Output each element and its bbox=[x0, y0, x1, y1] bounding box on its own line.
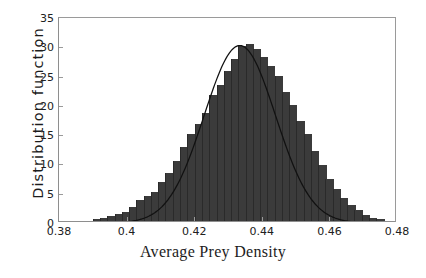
y-tick-mark bbox=[59, 164, 63, 165]
plot-area: 05101520253035 0.380.40.420.440.460.48 bbox=[58, 17, 396, 222]
y-tick-mark bbox=[59, 47, 63, 48]
x-tick-label: 0.4 bbox=[118, 225, 136, 238]
x-tick-mark bbox=[127, 217, 128, 221]
x-tick-mark bbox=[329, 217, 330, 221]
y-tick-label: 35 bbox=[40, 12, 54, 25]
y-tick-mark bbox=[59, 194, 63, 195]
x-tick-mark bbox=[194, 217, 195, 221]
y-tick-label: 10 bbox=[40, 158, 54, 171]
gaussian-fit-curve bbox=[59, 18, 395, 221]
x-tick-label: 0.48 bbox=[385, 225, 410, 238]
y-tick-label: 5 bbox=[47, 187, 54, 200]
y-tick-label: 15 bbox=[40, 129, 54, 142]
y-tick-mark bbox=[59, 77, 63, 78]
y-tick-mark bbox=[59, 106, 63, 107]
x-tick-label: 0.44 bbox=[250, 225, 275, 238]
x-tick-label: 0.38 bbox=[47, 225, 72, 238]
x-tick-label: 0.42 bbox=[182, 225, 207, 238]
x-tick-label: 0.46 bbox=[317, 225, 342, 238]
y-tick-mark bbox=[59, 135, 63, 136]
figure-container: Distribution function Average Prey Densi… bbox=[0, 0, 426, 278]
y-tick-label: 20 bbox=[40, 99, 54, 112]
y-tick-label: 25 bbox=[40, 70, 54, 83]
plot-inner bbox=[59, 18, 395, 221]
y-tick-label: 30 bbox=[40, 41, 54, 54]
x-axis-title: Average Prey Density bbox=[0, 243, 426, 261]
x-tick-mark bbox=[262, 217, 263, 221]
